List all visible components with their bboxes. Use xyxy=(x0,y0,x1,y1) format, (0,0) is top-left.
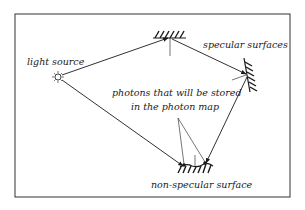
stored-photon-1 xyxy=(182,163,186,167)
label-stored-photons-line1: photons that will be stored xyxy=(112,87,242,98)
label-non-specular-surface: non-specular surface xyxy=(151,179,252,190)
label-specular-surfaces: specular surfaces xyxy=(203,39,288,50)
photon-map-diagram: light source specular surfaces photons t… xyxy=(0,0,305,210)
label-stored-photons-line2: in the photon map xyxy=(131,101,219,112)
stored-photon-2 xyxy=(203,161,207,165)
normal-right xyxy=(232,75,246,80)
leader-line-1 xyxy=(178,118,184,164)
label-light-source: light source xyxy=(27,56,85,67)
light-source-icon xyxy=(52,71,64,83)
leader-line-2 xyxy=(178,118,205,162)
